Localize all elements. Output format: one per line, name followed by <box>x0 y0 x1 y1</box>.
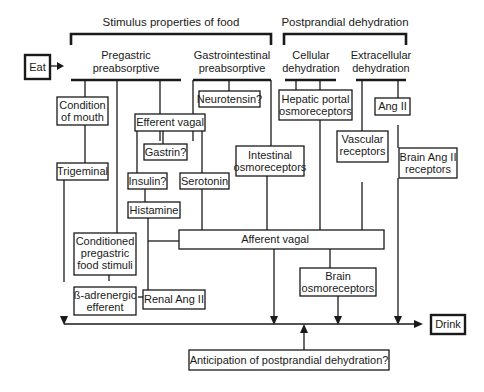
svg-text:receptors: receptors <box>405 163 451 175</box>
svg-text:Vascular: Vascular <box>342 133 384 145</box>
svg-text:Insulin?: Insulin? <box>129 175 167 187</box>
svg-text:Brain: Brain <box>325 270 351 282</box>
node-gastrin: Gastrin? <box>144 144 187 160</box>
node-ang-ii: Ang II <box>375 98 410 115</box>
svg-text:Trigeminal: Trigeminal <box>57 165 108 177</box>
header-postprandial-dehydration: Postprandial dehydration <box>281 16 408 28</box>
node-afferent-vagal: Afferent vagal <box>179 230 384 249</box>
node-beta-adrenergic-efferent: ß-adrenergic efferent <box>74 287 137 315</box>
stimulus-bracket <box>71 34 271 45</box>
node-histamine: Histamine <box>128 202 180 218</box>
svg-text:Hepatic portal: Hepatic portal <box>282 93 350 105</box>
svg-text:Serotonin: Serotonin <box>181 175 228 187</box>
arrow-head-icon <box>57 62 64 70</box>
svg-text:Histamine: Histamine <box>130 204 179 216</box>
node-anticipation: Anticipation of postprandial dehydration… <box>189 350 389 370</box>
svg-text:Neurotensin?: Neurotensin? <box>197 93 262 105</box>
node-efferent-vagal: Efferent vagal <box>135 114 205 131</box>
svg-text:Conditioned: Conditioned <box>76 235 135 247</box>
svg-text:Gastrin?: Gastrin? <box>145 146 187 158</box>
svg-text:Renal Ang II: Renal Ang II <box>144 293 204 305</box>
node-renal-ang-ii: Renal Ang II <box>143 290 205 309</box>
svg-text:Ang II: Ang II <box>378 100 407 112</box>
svg-text:pregastric: pregastric <box>81 247 130 259</box>
category-gi-line1: Gastrointestinal <box>194 49 270 61</box>
node-insulin: Insulin? <box>128 173 167 189</box>
svg-text:Brain Ang II: Brain Ang II <box>400 151 457 163</box>
svg-text:food stimuli: food stimuli <box>77 259 133 271</box>
svg-text:osmoreceptors: osmoreceptors <box>234 161 307 173</box>
svg-text:Drink: Drink <box>435 318 461 330</box>
svg-text:osmoreceptors: osmoreceptors <box>302 282 375 294</box>
category-cellular-line1: Cellular <box>292 49 330 61</box>
svg-text:Intestinal: Intestinal <box>248 149 292 161</box>
svg-text:Condition: Condition <box>59 99 105 111</box>
node-hepatic-portal-osmoreceptors: Hepatic portal osmoreceptors <box>279 90 352 120</box>
node-brain-ang-ii-receptors: Brain Ang II receptors <box>399 148 457 178</box>
category-extracellular-line2: dehydration <box>352 62 410 74</box>
node-brain-osmoreceptors: Brain osmoreceptors <box>300 268 376 296</box>
svg-text:efferent: efferent <box>86 301 123 313</box>
svg-text:osmoreceptors: osmoreceptors <box>279 105 352 117</box>
postprandial-bracket <box>284 34 406 45</box>
node-trigeminal: Trigeminal <box>57 163 108 180</box>
svg-text:of mouth: of mouth <box>61 111 104 123</box>
arrow-right-icon <box>414 320 423 328</box>
node-condition-of-mouth: Condition of mouth <box>57 97 108 125</box>
eat-label: Eat <box>29 61 46 73</box>
node-serotonin: Serotonin <box>180 173 229 189</box>
node-drink: Drink <box>431 315 465 334</box>
svg-text:receptors: receptors <box>340 145 386 157</box>
category-extracellular-line1: Extracellular <box>351 49 412 61</box>
node-neurotensin: Neurotensin? <box>197 91 262 107</box>
arrow-up-icon <box>300 324 308 333</box>
category-pregastric-line1: Pregastric <box>101 49 151 61</box>
node-vascular-receptors: Vascular receptors <box>337 131 388 162</box>
header-stimulus-properties: Stimulus properties of food <box>103 16 240 28</box>
svg-text:Afferent vagal: Afferent vagal <box>241 233 309 245</box>
svg-text:Anticipation of postprandial d: Anticipation of postprandial dehydration… <box>190 354 389 366</box>
category-cellular-line2: dehydration <box>282 62 340 74</box>
category-pregastric-line2: preabsorptive <box>93 62 160 74</box>
thirst-drinking-diagram: Stimulus properties of food Postprandial… <box>0 0 484 392</box>
svg-text:Efferent vagal: Efferent vagal <box>136 116 204 128</box>
svg-text:ß-adrenergic: ß-adrenergic <box>74 289 137 301</box>
node-conditioned-pregastric-food-stimuli: Conditioned pregastric food stimuli <box>74 233 136 275</box>
category-gi-line2: preabsorptive <box>199 62 266 74</box>
node-intestinal-osmoreceptors: Intestinal osmoreceptors <box>234 146 307 176</box>
